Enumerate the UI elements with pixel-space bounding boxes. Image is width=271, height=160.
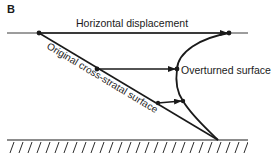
lower-displacement-arrow [158, 101, 181, 103]
ground-hatching [7, 141, 248, 154]
end-point-lower [181, 99, 185, 103]
deformation-diagram: B Horizontal displacement Original cross… [0, 0, 271, 160]
start-point-middle [95, 67, 100, 72]
panel-label: B [7, 3, 15, 15]
overturned-surface-curve [176, 33, 229, 140]
horizontal-displacement-label: Horizontal displacement [76, 17, 188, 29]
start-point-lower [156, 101, 160, 105]
original-surface-label: Original cross-stratal surface [45, 40, 160, 115]
start-point-top [37, 31, 42, 36]
end-point-top [227, 31, 232, 36]
overturned-surface-label: Overturned surface [181, 64, 271, 76]
end-point-middle [175, 67, 180, 72]
